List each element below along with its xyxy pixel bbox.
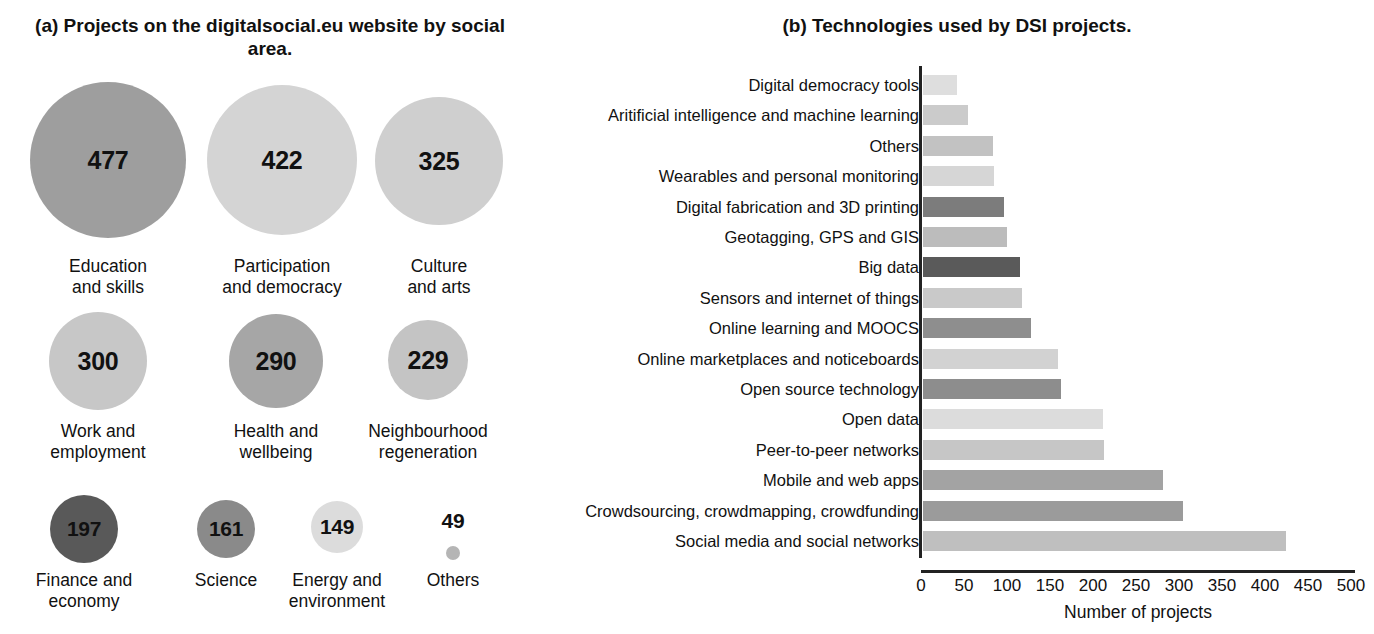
bar-plot-area: Digital democracy toolsAritificial intel…	[540, 66, 1374, 566]
bar-rect	[923, 440, 1104, 460]
x-axis-line	[921, 570, 1355, 573]
bar-category-label: Open source technology	[740, 380, 919, 398]
bar-row: Social media and social networks	[540, 526, 1374, 556]
bar-category-label: Sensors and internet of things	[700, 289, 919, 307]
bar-rect	[923, 75, 957, 95]
bubble-value: 300	[78, 347, 119, 376]
bar-category-label: Digital fabrication and 3D printing	[676, 198, 919, 216]
bar-row: Others	[540, 131, 1374, 161]
bar-rect	[923, 166, 994, 186]
bar-rect	[923, 136, 993, 156]
panel-b-title: (b) Technologies used by DSI projects.	[560, 14, 1354, 37]
y-axis-line	[919, 66, 922, 558]
x-tick-label: 250	[1122, 576, 1150, 596]
x-tick-label: 400	[1251, 576, 1279, 596]
bar-row: Online marketplaces and noticeboards	[540, 344, 1374, 374]
bar-category-label: Mobile and web apps	[763, 471, 919, 489]
bar-row: Aritificial intelligence and machine lea…	[540, 100, 1374, 130]
bar-rect	[923, 105, 968, 125]
bubble-label: Neighbourhood regeneration	[323, 421, 533, 463]
x-tick-label: 350	[1208, 576, 1236, 596]
bubble-value: 229	[408, 346, 449, 375]
bar-category-label: Others	[869, 137, 919, 155]
bubble-value: 422	[262, 146, 303, 175]
bar-category-label: Social media and social networks	[675, 532, 919, 550]
bubble-value: 290	[256, 347, 297, 376]
bubble-label: Others	[348, 570, 558, 591]
bar-rect	[923, 531, 1286, 551]
bar-row: Sensors and internet of things	[540, 283, 1374, 313]
bar-row: Digital democracy tools	[540, 70, 1374, 100]
bar-category-label: Aritificial intelligence and machine lea…	[608, 106, 919, 124]
x-axis-title: Number of projects	[921, 602, 1355, 623]
x-tick-label: 500	[1337, 576, 1365, 596]
x-tick-label: 450	[1294, 576, 1322, 596]
bar-category-label: Open data	[842, 410, 919, 428]
panel-b-bar-chart: (b) Technologies used by DSI projects. D…	[540, 0, 1374, 634]
bar-rect	[923, 197, 1004, 217]
bar-row: Open source technology	[540, 374, 1374, 404]
bar-category-label: Peer-to-peer networks	[756, 441, 919, 459]
bar-rect	[923, 227, 1007, 247]
bar-category-label: Wearables and personal monitoring	[659, 167, 919, 185]
bubble-value: 197	[67, 517, 101, 541]
x-tick-label: 100	[993, 576, 1021, 596]
bar-category-label: Online learning and MOOCS	[709, 319, 919, 337]
x-tick-label: 150	[1036, 576, 1064, 596]
bar-row: Crowdsourcing, crowdmapping, crowdfundin…	[540, 496, 1374, 526]
bar-category-label: Big data	[858, 258, 919, 276]
bar-category-label: Online marketplaces and noticeboards	[637, 350, 919, 368]
bar-category-label: Digital democracy tools	[748, 76, 919, 94]
bar-rect	[923, 257, 1020, 277]
bar-row: Mobile and web apps	[540, 465, 1374, 495]
x-tick-label: 0	[916, 576, 925, 596]
bubble-value: 49	[442, 509, 465, 533]
bar-row: Geotagging, GPS and GIS	[540, 222, 1374, 252]
bubble-value: 477	[88, 146, 129, 175]
bubble-value: 325	[419, 147, 460, 176]
bar-rect	[923, 349, 1058, 369]
bar-rect	[923, 318, 1031, 338]
bar-row: Peer-to-peer networks	[540, 435, 1374, 465]
bubble-value: 161	[209, 517, 243, 541]
x-tick-label: 50	[955, 576, 974, 596]
bar-rect	[923, 379, 1061, 399]
bar-rect	[923, 288, 1022, 308]
bar-row: Online learning and MOOCS	[540, 313, 1374, 343]
panel-a-bubble-chart: (a) Projects on the digitalsocial.eu web…	[0, 0, 540, 634]
bubble-value: 149	[320, 515, 354, 539]
bubble-area: 477Education and skills422Participation …	[0, 0, 540, 634]
bar-category-label: Crowdsourcing, crowdmapping, crowdfundin…	[585, 502, 919, 520]
bar-rect	[923, 470, 1163, 490]
bubble-label: Culture and arts	[334, 256, 544, 298]
bar-row: Digital fabrication and 3D printing	[540, 192, 1374, 222]
bar-rect	[923, 409, 1103, 429]
bar-row: Wearables and personal monitoring	[540, 161, 1374, 191]
bar-rect	[923, 501, 1183, 521]
bar-row: Open data	[540, 404, 1374, 434]
figure-root: (a) Projects on the digitalsocial.eu web…	[0, 0, 1374, 634]
bar-category-label: Geotagging, GPS and GIS	[725, 228, 919, 246]
bar-row: Big data	[540, 252, 1374, 282]
x-tick-label: 200	[1079, 576, 1107, 596]
bubble-circle	[446, 546, 460, 560]
x-tick-label: 300	[1165, 576, 1193, 596]
